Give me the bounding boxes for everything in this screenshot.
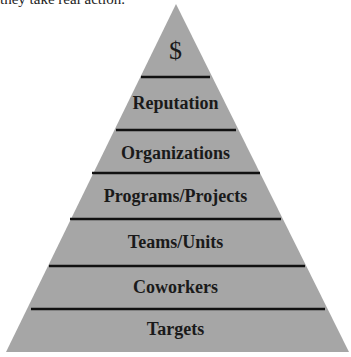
level-teams-units: Teams/Units [0, 232, 351, 253]
level-targets: Targets [0, 319, 351, 340]
level-programs-projects: Programs/Projects [0, 186, 351, 207]
level-organizations: Organizations [0, 143, 351, 164]
level-reputation: Reputation [0, 93, 351, 114]
level-money: $ [0, 36, 351, 66]
level-coworkers: Coworkers [0, 277, 351, 298]
